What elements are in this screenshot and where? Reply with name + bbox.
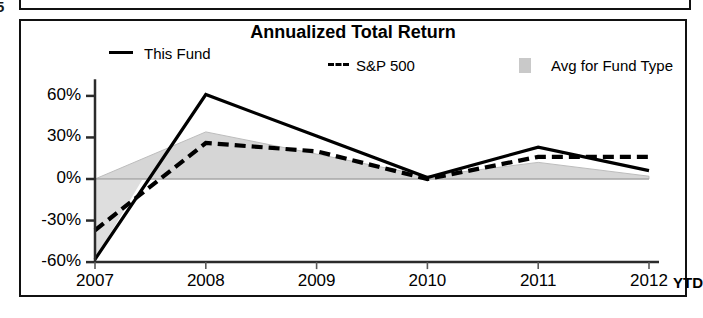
y-axis-tick-label: 30% <box>21 126 81 146</box>
x-axis-tick-label: 2011 <box>493 271 583 291</box>
plot-area <box>21 21 685 295</box>
x-axis-tick-label: 2010 <box>382 271 472 291</box>
y-axis-tick-label: 0% <box>21 168 81 188</box>
annualized-total-return-chart: Annualized Total Return This Fund S&P 50… <box>19 19 687 297</box>
y-axis-tick-label: -30% <box>21 210 81 230</box>
x-axis-tick-label: 2009 <box>272 271 362 291</box>
x-axis-ytd-label: YTD <box>673 274 703 291</box>
x-axis-tick-label: 2008 <box>161 271 251 291</box>
y-axis-tick-label: -60% <box>21 251 81 271</box>
scan-edge-fragment: 5 <box>0 0 3 16</box>
y-axis-tick-label: 60% <box>21 85 81 105</box>
above-table-bottom-edge <box>19 0 691 10</box>
x-axis-tick-label: 2007 <box>50 271 140 291</box>
